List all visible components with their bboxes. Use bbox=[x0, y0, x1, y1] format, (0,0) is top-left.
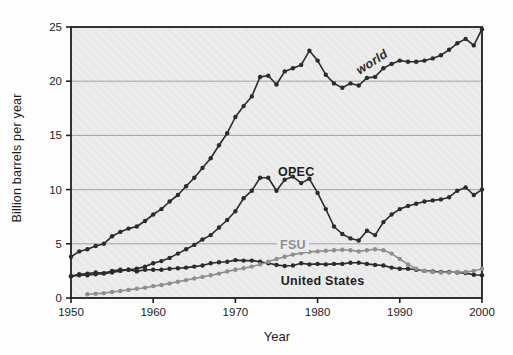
x-tick-label: 1970 bbox=[223, 306, 249, 318]
x-tick-label: 1980 bbox=[305, 306, 331, 318]
chart-canvas: Billion barrels per year Year 0510152025… bbox=[0, 0, 513, 355]
series-label-fsu: FSU bbox=[277, 238, 309, 252]
y-tick-label: 10 bbox=[49, 184, 62, 196]
y-tick-label: 25 bbox=[49, 21, 62, 33]
y-axis-title: Billion barrels per year bbox=[10, 93, 24, 222]
y-tick-label: 0 bbox=[56, 292, 62, 304]
series-label-united-states: United States bbox=[281, 274, 365, 288]
plot-area bbox=[0, 0, 513, 355]
y-tick-label: 5 bbox=[56, 238, 62, 250]
x-tick-label: 1950 bbox=[58, 306, 84, 318]
series-label-opec: OPEC bbox=[278, 165, 315, 179]
oil-production-chart-figure: Billion barrels per year Year 0510152025… bbox=[0, 0, 513, 355]
y-tick-label: 20 bbox=[49, 75, 62, 87]
x-axis-title: Year bbox=[264, 329, 290, 344]
x-tick-label: 1990 bbox=[387, 306, 413, 318]
x-tick-label: 2000 bbox=[469, 306, 495, 318]
x-tick-label: 1960 bbox=[140, 306, 166, 318]
y-tick-label: 15 bbox=[49, 129, 62, 141]
